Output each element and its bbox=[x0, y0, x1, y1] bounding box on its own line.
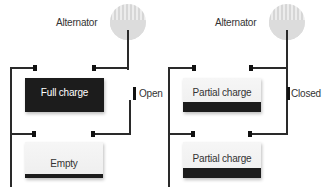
panel-left-open-switch: Alternator Open Full charge Empty bbox=[0, 0, 160, 196]
alternator-wire bbox=[127, 30, 129, 70]
battery-charge-level bbox=[25, 174, 103, 178]
battery2-positive-terminal bbox=[91, 131, 95, 137]
switch-lower-wire bbox=[129, 100, 131, 135]
battery1-positive-terminal bbox=[92, 65, 96, 71]
top-left-wire bbox=[10, 67, 34, 69]
battery-empty: Empty bbox=[25, 142, 103, 178]
bottom-left-wire bbox=[10, 133, 34, 135]
switch-state-label: Closed bbox=[291, 88, 321, 99]
battery-label: Partial charge bbox=[183, 153, 261, 164]
battery1-positive-terminal bbox=[249, 65, 253, 71]
battery2-negative-terminal bbox=[191, 131, 195, 137]
top-right-wire bbox=[252, 67, 288, 69]
switch-closed-icon bbox=[287, 87, 290, 100]
alternator-label: Alternator bbox=[215, 17, 256, 28]
alternator-label: Alternator bbox=[56, 17, 97, 28]
battery2-negative-terminal bbox=[32, 131, 36, 137]
panel-right-closed-switch: Alternator Closed Partial charge Partial… bbox=[160, 0, 325, 196]
battery-partial-charge: Partial charge bbox=[183, 78, 261, 112]
battery-partial-charge: Partial charge bbox=[183, 142, 261, 178]
battery2-positive-terminal bbox=[248, 131, 252, 137]
battery-charge-level bbox=[183, 168, 261, 178]
battery-charge-level bbox=[183, 102, 261, 112]
bottom-left-wire bbox=[168, 133, 192, 135]
battery1-negative-terminal bbox=[33, 65, 37, 71]
bottom-right-wire bbox=[94, 133, 131, 135]
switch-open-icon bbox=[133, 87, 136, 100]
top-left-wire bbox=[168, 67, 192, 69]
top-right-wire bbox=[94, 67, 129, 69]
battery1-negative-terminal bbox=[192, 65, 196, 71]
battery-label: Empty bbox=[25, 158, 103, 169]
left-bus-wire bbox=[10, 67, 12, 187]
battery-label: Full charge bbox=[25, 87, 104, 98]
battery-full-charge: Full charge bbox=[25, 78, 104, 112]
battery-label: Partial charge bbox=[183, 87, 261, 98]
left-bus-wire bbox=[168, 67, 170, 187]
bottom-right-wire bbox=[252, 133, 288, 135]
alternator-wire bbox=[286, 30, 288, 135]
